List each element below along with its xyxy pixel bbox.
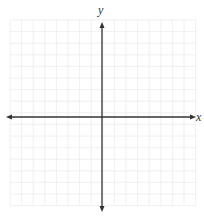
y-axis-label: y [98,4,103,16]
x-axis-label: x [196,111,201,123]
grid-lines [10,20,196,206]
axes [6,22,196,212]
coordinate-plane [0,0,204,218]
y-axis-arrow-down-icon [100,206,105,212]
y-axis-arrow-up-icon [100,22,105,28]
x-axis-arrow-left-icon [6,115,12,120]
